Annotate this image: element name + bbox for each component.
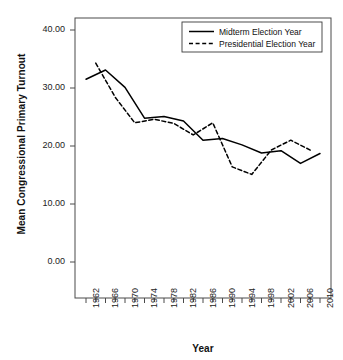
- x-axis-ticks: [86, 298, 320, 303]
- legend-label-midterm: Midterm Election Year: [219, 27, 302, 37]
- chart-figure: Midterm Election Year Presidential Elect…: [0, 0, 343, 360]
- x-tick-label: 2006: [305, 288, 315, 308]
- x-axis-title: Year: [75, 343, 331, 354]
- x-tick-label: 1974: [149, 288, 159, 308]
- y-tick-label: 20.00: [23, 140, 65, 150]
- x-tick-label: 1982: [188, 288, 198, 308]
- x-tick-label: 2002: [286, 288, 296, 308]
- x-tick-label: 1966: [110, 288, 120, 308]
- x-tick-label: 1970: [130, 288, 140, 308]
- y-tick-label: 30.00: [23, 82, 65, 92]
- y-axis-ticks: [70, 30, 75, 262]
- x-tick-label: 1962: [91, 288, 101, 308]
- x-tick-label: 1998: [266, 288, 276, 308]
- x-tick-label: 1978: [169, 288, 179, 308]
- x-tick-label: 2010: [325, 288, 335, 308]
- x-tick-label: 1986: [208, 288, 218, 308]
- y-tick-label: 10.00: [23, 198, 65, 208]
- legend-label-presidential: Presidential Election Year: [219, 39, 315, 49]
- y-tick-label: 40.00: [23, 24, 65, 34]
- y-tick-label: 0.00: [23, 256, 65, 266]
- x-tick-label: 1990: [227, 288, 237, 308]
- x-tick-label: 1994: [247, 288, 257, 308]
